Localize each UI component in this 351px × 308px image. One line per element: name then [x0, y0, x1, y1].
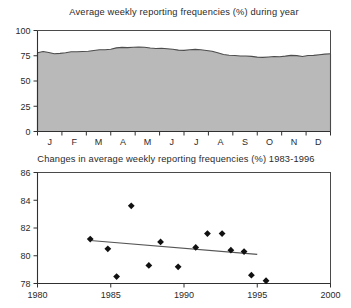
top-chart: Average weekly reporting frequencies (%)… [15, 7, 330, 147]
top-x-tick-label-a-7: A [218, 137, 224, 147]
figure-container: Average weekly reporting frequencies (%)… [0, 0, 351, 308]
bottom-y-tick-label: 84 [20, 196, 30, 206]
top-x-tick-label-m-2: M [95, 137, 103, 147]
top-y-tick-label: 50 [20, 76, 30, 86]
bottom-x-tick-label-1980: 1980 [27, 290, 47, 300]
scatter-point-0 [87, 236, 94, 243]
bottom-y-tick-label: 86 [20, 168, 30, 178]
scatter-point-8 [204, 230, 211, 237]
top-x-tick-label-j-5: J [170, 137, 175, 147]
scatter-point-1 [104, 245, 111, 252]
bottom-x-tick-label-2000: 2000 [320, 290, 340, 300]
top-x-tick-label-a-3: A [120, 137, 126, 147]
top-x-tick-label-n-10: N [291, 137, 298, 147]
area-fill-region [38, 47, 331, 132]
top-x-tick-label-d-11: D [315, 137, 322, 147]
bottom-y-tick-label: 80 [20, 251, 30, 261]
bottom-x-tick-label-1985: 1985 [101, 290, 121, 300]
scatter-point-5 [157, 238, 164, 245]
top-x-tick-label-m-4: M [144, 137, 152, 147]
top-y-tick-label: 100 [15, 26, 30, 36]
bottom-chart-title: Changes in average weekly reporting freq… [37, 154, 314, 164]
scatter-point-2 [113, 273, 120, 280]
bottom-y-tick-label: 78 [20, 279, 30, 289]
bottom-x-tick-label-1990: 1990 [174, 290, 194, 300]
top-x-tick-label-j-0: J [47, 137, 52, 147]
bottom-y-tick-label: 82 [20, 223, 30, 233]
bottom-chart: Changes in average weekly reporting freq… [20, 154, 340, 300]
scatter-point-12 [248, 272, 255, 279]
top-x-tick-label-f-1: F [71, 137, 77, 147]
bottom-chart-frame [38, 173, 331, 284]
top-x-tick-label-o-9: O [266, 137, 273, 147]
scatter-point-4 [145, 262, 152, 269]
top-y-tick-label: 25 [20, 102, 30, 112]
bottom-x-tick-label-1995: 1995 [247, 290, 267, 300]
scatter-point-9 [219, 230, 226, 237]
scatter-point-3 [128, 202, 135, 209]
top-y-tick-label: 0 [25, 127, 30, 137]
scatter-point-6 [175, 263, 182, 270]
top-x-tick-label-j-6: J [194, 137, 199, 147]
top-x-tick-label-s-8: S [242, 137, 248, 147]
charts-svg: Average weekly reporting frequencies (%)… [0, 0, 351, 308]
top-chart-title: Average weekly reporting frequencies (%)… [69, 7, 298, 17]
top-y-tick-label: 75 [20, 51, 30, 61]
